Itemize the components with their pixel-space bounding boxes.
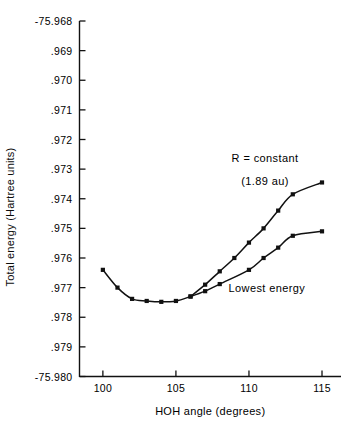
data-point	[276, 209, 280, 213]
lowest-energy-annotation: Lowest energy	[229, 282, 306, 294]
y-tick-label: .977	[51, 282, 73, 294]
y-tick-label: .976	[51, 252, 73, 264]
r-constant-annotation-line2: (1.89 au)	[241, 175, 289, 187]
x-tick-label: 110	[240, 382, 258, 394]
data-point	[174, 299, 178, 303]
y-tick-label: .969	[51, 45, 73, 57]
x-tick-label: 105	[167, 382, 185, 394]
data-point	[203, 289, 207, 293]
y-tick-label: .973	[51, 163, 73, 175]
y-tick-label: .979	[51, 341, 73, 353]
x-tick-labels: 100105110115	[94, 382, 331, 394]
data-point	[261, 256, 265, 260]
data-point	[218, 269, 222, 273]
x-tick-label: 100	[94, 382, 112, 394]
y-tick-label: -75.968	[35, 15, 73, 27]
data-point	[261, 226, 265, 230]
y-tick-label: .971	[51, 104, 73, 116]
plot-canvas: -75.968.969.970.971.972.973.974.975.976.…	[0, 0, 351, 434]
y-tick-labels: -75.968.969.970.971.972.973.974.975.976.…	[35, 15, 73, 383]
data-point	[291, 192, 295, 196]
y-tick-label: -75.980	[35, 371, 73, 383]
y-axis-title: Total energy (Hartree units)	[0, 0, 21, 434]
axes-group	[80, 21, 342, 377]
x-tick-marks	[103, 371, 322, 377]
data-point	[247, 268, 251, 272]
y-tick-label: .972	[51, 134, 73, 146]
y-axis-title-text: Total energy (Hartree units)	[4, 148, 16, 287]
series-line	[191, 182, 322, 296]
y-tick-label: .975	[51, 222, 73, 234]
data-point	[218, 282, 222, 286]
data-point	[159, 300, 163, 304]
data-point	[232, 256, 236, 260]
data-point	[276, 246, 280, 250]
data-point	[188, 294, 192, 298]
data-point	[145, 299, 149, 303]
data-point	[115, 286, 119, 290]
x-tick-label: 115	[313, 382, 331, 394]
r-constant-annotation-line1: R = constant	[232, 152, 299, 164]
y-tick-label: .970	[51, 74, 73, 86]
data-point	[291, 234, 295, 238]
x-axis-title: HOH angle (degrees)	[155, 405, 265, 417]
data-point	[101, 268, 105, 272]
y-tick-label: .978	[51, 311, 73, 323]
energy-vs-hoh-angle-chart: Total energy (Hartree units) -75.968.969…	[0, 0, 351, 434]
data-point	[320, 229, 324, 233]
data-point	[247, 241, 251, 245]
data-point	[320, 180, 324, 184]
data-point	[130, 297, 134, 301]
y-tick-label: .974	[51, 193, 73, 205]
data-point	[203, 283, 207, 287]
y-tick-marks	[80, 21, 86, 377]
